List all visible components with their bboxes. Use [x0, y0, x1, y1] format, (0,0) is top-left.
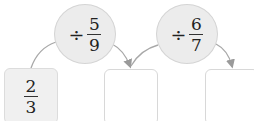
- numerator: 5: [89, 15, 100, 33]
- start-fraction: 2 3: [24, 77, 38, 116]
- divide-symbol: ÷: [69, 23, 85, 45]
- operation-circle-2: ÷ 6 7: [156, 4, 218, 64]
- numerator: 2: [26, 77, 37, 95]
- divide-symbol: ÷: [171, 23, 187, 45]
- operation-circle-1: ÷ 5 9: [54, 4, 116, 64]
- operation-fraction-2: 6 7: [189, 15, 203, 54]
- start-value-box: 2 3: [4, 68, 58, 121]
- denominator: 3: [26, 98, 37, 116]
- arrow-line-4: [216, 44, 232, 66]
- answer-box-1[interactable]: [104, 69, 158, 121]
- operation-fraction-1: 5 9: [87, 15, 101, 54]
- denominator: 7: [191, 36, 202, 54]
- answer-box-2[interactable]: [205, 69, 254, 121]
- arrow-line-2: [112, 44, 130, 66]
- arrow-line-1: [31, 42, 56, 68]
- numerator: 6: [191, 15, 202, 33]
- denominator: 9: [89, 36, 100, 54]
- arrow-line-3: [131, 45, 158, 66]
